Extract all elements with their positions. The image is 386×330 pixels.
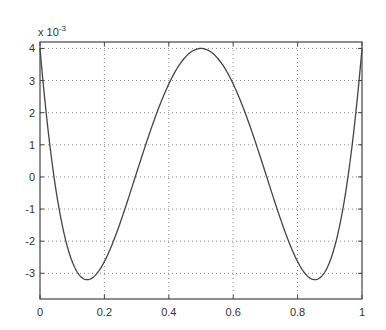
x-tick-label: 0.6 [226, 306, 241, 318]
y-tick-label: 2 [29, 107, 35, 119]
y-tick-label: 3 [29, 75, 35, 87]
x-tick-label: 0.2 [97, 306, 112, 318]
line-chart: 00.20.40.60.81 -3-2-101234 x 10-3 [0, 0, 386, 330]
grid-lines [40, 42, 362, 299]
x-tick-label: 0 [37, 306, 43, 318]
data-series [40, 48, 362, 279]
y-tick-label: 4 [29, 42, 35, 54]
x-tick-labels: 00.20.40.60.81 [37, 306, 365, 318]
y-tick-label: -1 [25, 203, 35, 215]
x-tick-label: 1 [359, 306, 365, 318]
y-tick-label: 0 [29, 171, 35, 183]
y-tick-label: -2 [25, 235, 35, 247]
y-tick-label: 1 [29, 139, 35, 151]
y-scale-exponent-label: x 10-3 [38, 24, 66, 38]
curve-line [40, 48, 362, 279]
x-tick-label: 0.4 [161, 306, 176, 318]
y-tick-labels: -3-2-101234 [25, 42, 35, 279]
y-tick-label: -3 [25, 267, 35, 279]
x-tick-label: 0.8 [290, 306, 305, 318]
